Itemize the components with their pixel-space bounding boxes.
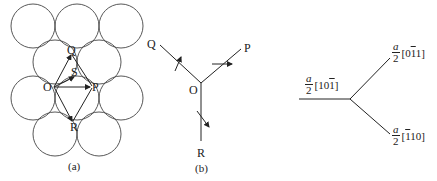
frac-den: 2: [393, 136, 399, 147]
caption-a: (a): [68, 161, 80, 172]
idx-part: [0: [402, 47, 411, 59]
diagram-canvas: [0, 0, 437, 181]
label-o-b: O: [189, 84, 198, 96]
burgers-vector-left: a2 [101]: [305, 73, 338, 96]
idx-part: [1: [315, 79, 324, 91]
burgers-vector-upper: a2 [011]: [392, 41, 425, 64]
miller-index: [110]: [402, 130, 425, 142]
label-o-a: O: [43, 81, 52, 93]
burgers-vector-lower: a2 [110]: [392, 124, 425, 147]
idx-part: ]: [335, 79, 339, 91]
caption-b: (b): [195, 163, 208, 174]
label-r-b: R: [197, 147, 205, 159]
frac-den: 2: [306, 85, 312, 96]
label-r-a: R: [70, 121, 78, 133]
label-q-a: Q: [67, 44, 76, 56]
label-p-a: P: [92, 81, 99, 93]
label-q-b: Q: [147, 38, 156, 50]
dislocation-reaction-c: [299, 58, 390, 134]
frac-den: 2: [393, 53, 399, 64]
label-p-b: P: [244, 42, 251, 54]
dislocation-node-b: [160, 45, 241, 141]
miller-index: [101]: [315, 79, 339, 91]
idx-part: 1]: [416, 47, 425, 59]
idx-part: 10]: [410, 130, 425, 142]
miller-index: [011]: [402, 47, 425, 59]
label-s-a: S: [71, 66, 78, 78]
